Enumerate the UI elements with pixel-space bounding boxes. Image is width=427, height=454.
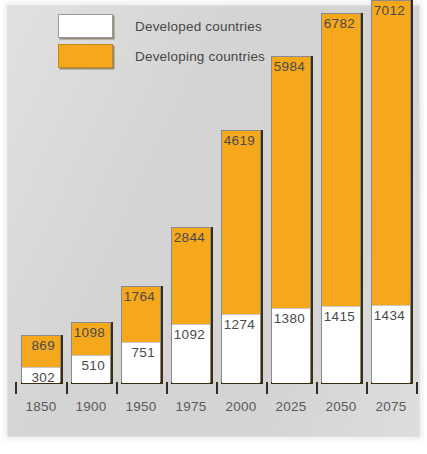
- bar-developed-label-2050: 1415: [324, 310, 355, 324]
- legend-item-developed: Developed countries: [58, 13, 338, 39]
- legend-label-developed: Developed countries: [135, 19, 262, 34]
- bar-total-label-2000: 4619: [224, 134, 255, 148]
- bar-segment-developed-1975: 1092: [172, 324, 210, 383]
- bar-group-1975: 28441092: [171, 227, 211, 382]
- stacked-bar-chart: Developed countries Developing countries…: [8, 6, 419, 436]
- axis-tick-2075: [416, 382, 418, 394]
- bar-developed-label-1850: 302: [32, 371, 55, 385]
- x-axis-label-1975: 1975: [167, 399, 215, 414]
- bar-total-label-1950: 1764: [124, 290, 155, 304]
- bar-segment-developed-1900: 510: [72, 355, 110, 383]
- bar-developed-label-2025: 1380: [274, 312, 305, 326]
- bar-developed-label-1950: 751: [132, 346, 155, 360]
- stacked-bar-2050: 67821415: [321, 13, 361, 382]
- screenshot-frame: Developed countries Developing countries…: [0, 0, 427, 454]
- bar-group-1900: 1098510: [71, 322, 111, 382]
- axis-tick-1950: [166, 382, 168, 394]
- bar-group-2025: 59841380: [271, 56, 311, 382]
- bar-total-label-2075: 7012: [374, 4, 405, 18]
- axis-tick-1850: [66, 382, 68, 394]
- bar-segment-developing-2050: 6782: [322, 14, 360, 306]
- bar-developed-label-2075: 1434: [374, 309, 405, 323]
- bar-segment-developed-1950: 751: [122, 342, 160, 383]
- x-axis-label-2000: 2000: [217, 399, 265, 414]
- x-axis-label-2025: 2025: [267, 399, 315, 414]
- bar-developed-label-1975: 1092: [174, 328, 205, 342]
- x-axis-label-1850: 1850: [17, 399, 65, 414]
- bar-segment-developing-2025: 5984: [272, 57, 310, 308]
- x-axis-label-2050: 2050: [317, 399, 365, 414]
- stacked-bar-1900: 1098510: [71, 322, 111, 382]
- stacked-bar-1850: 869302: [21, 335, 61, 382]
- bar-group-1950: 1764751: [121, 286, 161, 382]
- x-axis-label-1900: 1900: [67, 399, 115, 414]
- bar-total-label-1900: 1098: [74, 326, 105, 340]
- bar-segment-developed-1850: 302: [22, 367, 60, 383]
- bar-total-label-2050: 6782: [324, 17, 355, 31]
- bar-developed-label-1900: 510: [82, 359, 105, 373]
- stacked-bar-2025: 59841380: [271, 56, 311, 382]
- bar-developed-label-2000: 1274: [224, 318, 255, 332]
- bar-total-label-2025: 5984: [274, 60, 305, 74]
- axis-tick-2000: [266, 382, 268, 394]
- stacked-bar-1950: 1764751: [121, 286, 161, 382]
- bar-segment-developing-1975: 2844: [172, 228, 210, 324]
- axis-tick-1975: [216, 382, 218, 394]
- stacked-bar-1975: 28441092: [171, 227, 211, 382]
- bar-segment-developed-2075: 1434: [372, 305, 410, 383]
- bar-group-2075: 70121434: [371, 0, 411, 382]
- bar-segment-developed-2050: 1415: [322, 306, 360, 383]
- bar-segment-developed-2025: 1380: [272, 308, 310, 383]
- bar-group-1850: 869302: [21, 335, 61, 382]
- axis-tick-start: [15, 382, 17, 394]
- bar-segment-developed-2000: 1274: [222, 314, 260, 383]
- bar-segment-developing-1850: 869: [22, 336, 60, 367]
- legend-swatch-developed-icon: [58, 14, 113, 38]
- bar-total-label-1975: 2844: [174, 231, 205, 245]
- bar-group-2000: 46191274: [221, 130, 261, 382]
- bar-segment-developing-1900: 1098: [72, 323, 110, 355]
- stacked-bar-2075: 70121434: [371, 0, 411, 382]
- axis-tick-2025: [316, 382, 318, 394]
- axis-tick-1900: [116, 382, 118, 394]
- x-axis-label-2075: 2075: [367, 399, 415, 414]
- stacked-bar-2000: 46191274: [221, 130, 261, 382]
- bar-segment-developing-1950: 1764: [122, 287, 160, 342]
- legend-label-developing: Developing countries: [135, 49, 265, 64]
- bar-group-2050: 67821415: [321, 13, 361, 382]
- bar-total-label-1850: 869: [32, 339, 55, 353]
- x-axis-label-1950: 1950: [117, 399, 165, 414]
- bar-segment-developing-2000: 4619: [222, 131, 260, 314]
- legend-swatch-developing-icon: [58, 44, 113, 68]
- axis-tick-2050: [366, 382, 368, 394]
- bar-segment-developing-2075: 7012: [372, 1, 410, 305]
